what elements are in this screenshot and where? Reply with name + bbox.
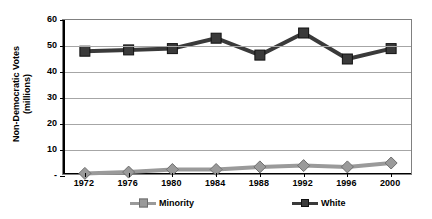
x-tick-mark (347, 173, 348, 177)
y-tick-label: 10 (31, 145, 57, 154)
x-tick-label: 1980 (151, 179, 191, 188)
data-point-minority (341, 161, 353, 173)
y-tick-label: 20 (31, 119, 57, 128)
legend-item-white[interactable]: White (292, 198, 346, 208)
x-tick-label: 1984 (195, 179, 235, 188)
legend-marker-minority (130, 202, 156, 205)
square-icon (301, 199, 309, 207)
y-tick-mark (60, 20, 65, 21)
data-point-white (255, 50, 265, 60)
x-tick-mark (129, 173, 130, 177)
gridline (63, 98, 411, 99)
plot-area (62, 19, 412, 175)
y-tick-mark (60, 124, 65, 125)
data-point-white (299, 28, 309, 38)
legend-item-minority[interactable]: Minority (130, 198, 194, 208)
x-tick-label: 1988 (239, 179, 279, 188)
diamond-icon (139, 199, 148, 208)
y-tick-mark (60, 176, 65, 177)
gridline (63, 46, 411, 47)
y-tick-label: 30 (31, 93, 57, 102)
y-tick-mark (60, 46, 65, 47)
gridline (63, 124, 411, 125)
data-point-minority (254, 161, 266, 173)
data-point-minority (385, 157, 397, 169)
x-tick-label: 1996 (326, 179, 366, 188)
x-tick-mark (260, 173, 261, 177)
gridline (63, 150, 411, 151)
x-tick-mark (391, 173, 392, 177)
x-tick-mark (85, 173, 86, 177)
x-tick-label: 1976 (108, 179, 148, 188)
data-point-white (80, 46, 90, 56)
x-tick-label: 1992 (283, 179, 323, 188)
y-tick-mark (60, 98, 65, 99)
line-chart: Non-Democratic Votes(millions) -10203040… (0, 0, 432, 219)
x-tick-mark (216, 173, 217, 177)
y-tick-mark (60, 72, 65, 73)
gridline (63, 72, 411, 73)
chart-legend: MinorityWhite (62, 196, 412, 214)
data-point-white (211, 33, 221, 43)
x-tick-mark (304, 173, 305, 177)
x-tick-mark (172, 173, 173, 177)
legend-label: Minority (159, 198, 194, 208)
data-point-white (342, 54, 352, 64)
legend-label: White (321, 198, 346, 208)
x-tick-label: 1972 (64, 179, 104, 188)
y-tick-label: 50 (31, 41, 57, 50)
legend-marker-white (292, 202, 318, 205)
y-tick-mark (60, 150, 65, 151)
y-tick-label: 40 (31, 67, 57, 76)
x-tick-label: 2000 (370, 179, 410, 188)
data-point-minority (298, 160, 310, 172)
y-tick-label: - (31, 171, 57, 180)
y-tick-label: 60 (31, 15, 57, 24)
